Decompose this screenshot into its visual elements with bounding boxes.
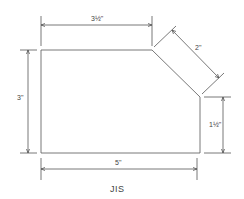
dim-label-chamfer: 2"	[195, 44, 201, 51]
shape-outline	[41, 50, 200, 153]
ext-line-chamfer-top	[154, 26, 176, 47]
dim-label-top: 3½"	[91, 15, 103, 22]
ext-line-chamfer-bottom	[202, 73, 224, 94]
drawing-caption: JIS	[110, 184, 125, 194]
dim-line-chamfer	[172, 30, 219, 78]
drawing-canvas	[0, 0, 244, 199]
dim-label-bottom: 5"	[115, 159, 121, 166]
dim-label-right: 1½"	[209, 121, 221, 128]
dim-label-left: 3"	[17, 94, 23, 101]
